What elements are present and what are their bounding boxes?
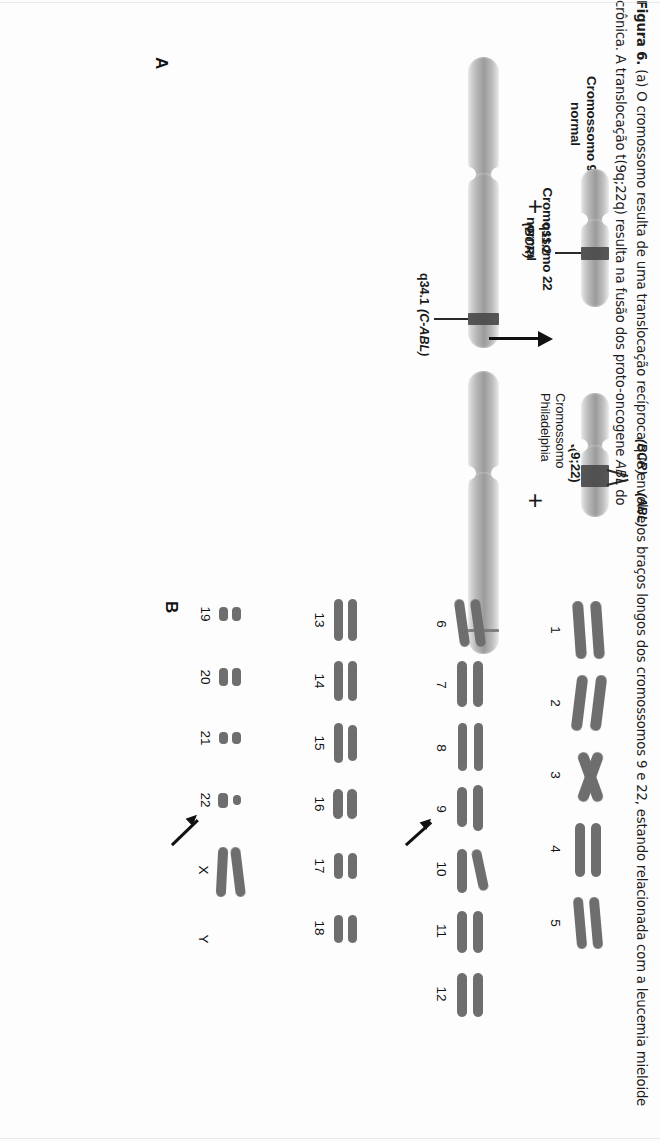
karyotype-number: 4: [548, 829, 563, 869]
arrow-to-chromosome-9: [403, 811, 433, 853]
karyotype-number: 15: [312, 723, 327, 763]
panel-a-letter: A: [151, 57, 171, 69]
label-bcr-gene-normal: (BCR): [522, 223, 536, 258]
karyotype-number: 21: [198, 718, 213, 758]
figure-page: Cromossomo 9 normal Cromossomo 22 normal…: [0, 0, 660, 1142]
karyotype-number: 2: [548, 683, 563, 723]
label-q11-2: q11.2: [539, 223, 553, 254]
translocation-arrow: [489, 329, 553, 349]
label-c-abl-gene: (C-ABL): [417, 309, 431, 356]
karyotype-number: X: [196, 850, 211, 890]
karyotype-number: 19: [198, 594, 213, 634]
panel-b-letter: B: [161, 601, 181, 613]
karyotype-number: 3: [548, 755, 563, 795]
karyotype-number: 20: [198, 657, 213, 697]
karyotype-number: 13: [312, 600, 327, 640]
karyotype-row-3: 13 14 15: [249, 589, 359, 1101]
karyotype-number: 11: [434, 911, 449, 951]
karyotype-row-2: 6 7 8: [365, 589, 485, 1101]
karyotype-row-4: 19 20 21: [123, 589, 243, 1101]
caption-text: (a) O cromossomo resulta de uma transloc…: [613, 0, 649, 1106]
scan-edge-bottom: [0, 1138, 660, 1139]
arrow-to-chromosome-22: [169, 807, 199, 851]
figure-caption: Figura 6. (a) O cromossomo resulta de um…: [576, 0, 652, 1130]
label-cromossomo-philadelphia: Cromossomo Philadelphia: [537, 393, 567, 543]
figure-content: Cromossomo 9 normal Cromossomo 22 normal…: [49, 41, 611, 1101]
label-q34-1: q34.1: [417, 273, 431, 305]
karyotype-number: 9: [434, 789, 449, 829]
karyotype-number: 14: [312, 661, 327, 701]
scan-edge-top: [0, 2, 660, 3]
caption-gene-abl: ABL: [613, 460, 628, 485]
karyotype-number: 16: [312, 784, 327, 824]
karyotype-number: 22: [198, 780, 213, 820]
caption-text-end: do: [613, 485, 628, 505]
karyotype-number: 18: [312, 908, 327, 948]
caption-figure-number: Figura 6.: [634, 0, 649, 65]
karyotype-number: 10: [434, 849, 449, 889]
karyotype-number: 5: [548, 903, 563, 943]
figure-caption-wrapper: Figura 6. (a) O cromossomo resulta de um…: [576, 0, 654, 1142]
karyotype-number: 1: [548, 610, 563, 650]
karyotype-number: 17: [312, 846, 327, 886]
karyotype-number: 6: [434, 604, 449, 644]
rotated-figure-canvas: Cromossomo 9 normal Cromossomo 22 normal…: [49, 41, 611, 1101]
panel-b-karyotype: 1 2: [81, 589, 611, 1101]
karyotype-number: 12: [434, 974, 449, 1014]
karyotype-number: 7: [434, 665, 449, 705]
panel-a-diagram: Cromossomo 9 normal Cromossomo 22 normal…: [99, 41, 611, 581]
karyotype-number: Y: [196, 919, 211, 959]
plus-sign-left: +: [523, 199, 549, 214]
karyotype-number: 8: [434, 728, 449, 768]
